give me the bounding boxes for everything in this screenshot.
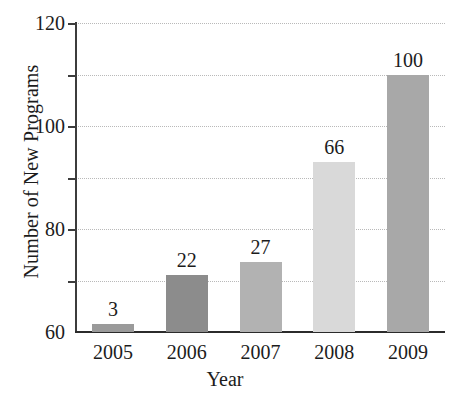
- bar-2009[interactable]: 100: [387, 75, 429, 333]
- y-tick-mark: [68, 281, 77, 283]
- x-tick-label-2008: 2008: [314, 341, 354, 364]
- y-tick-mark: [68, 23, 77, 25]
- y-axis-title: Number of New Programs: [20, 22, 43, 322]
- y-gridline: [76, 23, 445, 24]
- x-tick-label-2005: 2005: [93, 341, 133, 364]
- bar-2006[interactable]: 22: [166, 275, 208, 332]
- bar-value-label: 27: [251, 236, 271, 259]
- y-tick-label: 100: [35, 115, 65, 138]
- bar-2007[interactable]: 27: [240, 262, 282, 332]
- bar-chart: Number of New Programs 20406080100120322…: [0, 0, 450, 395]
- x-tick-label-2007: 2007: [241, 341, 281, 364]
- bar-value-label: 66: [324, 136, 344, 159]
- y-tick-label: 60: [45, 321, 65, 344]
- x-axis-title: Year: [0, 368, 450, 391]
- x-tick-label-2009: 2009: [388, 341, 428, 364]
- y-tick-mark: [68, 229, 77, 231]
- y-tick-mark: [68, 126, 77, 128]
- x-tick-label-2006: 2006: [167, 341, 207, 364]
- y-tick-label: 80: [45, 218, 65, 241]
- y-tick-label: 120: [35, 12, 65, 35]
- plot-area: 204060801001203222766100: [76, 23, 445, 332]
- bar-2005[interactable]: 3: [92, 324, 134, 332]
- bar-value-label: 3: [108, 298, 118, 321]
- y-tick-mark: [68, 75, 77, 77]
- bar-value-label: 22: [177, 249, 197, 272]
- bar-value-label: 100: [393, 49, 423, 72]
- y-tick-mark: [68, 178, 77, 180]
- bar-2008[interactable]: 66: [313, 162, 355, 332]
